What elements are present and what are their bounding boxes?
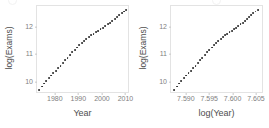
y-axis-tick-mark [169, 54, 172, 55]
data-point [62, 62, 64, 64]
data-point [55, 70, 57, 72]
y-axis-tick-label: 11 [17, 50, 33, 57]
data-point [257, 9, 259, 11]
data-point [222, 36, 224, 38]
x-axis-tick-mark [125, 93, 126, 95]
data-point [102, 27, 104, 29]
data-point [67, 57, 69, 59]
x-axis-tick-labels-right: 7.5907.5957.6007.605 [170, 95, 263, 107]
x-axis-tick-label: 7.600 [224, 95, 242, 102]
plot-area-right [170, 5, 263, 93]
data-point [38, 89, 40, 91]
data-point [71, 51, 73, 53]
x-axis-tick-mark [186, 93, 187, 95]
y-axis-title-right: log(Exams) [136, 0, 150, 96]
data-point [180, 80, 182, 82]
data-point [208, 49, 210, 51]
x-axis-tick-mark [232, 93, 233, 95]
data-point [88, 36, 90, 38]
data-point [116, 16, 118, 18]
data-point [197, 62, 199, 64]
y-axis-title-left: log(Exams) [2, 0, 16, 96]
x-axis-tick-label: 1980 [47, 95, 63, 102]
x-axis-title-left: Year [36, 108, 129, 118]
y-axis-tick-label: 12 [151, 22, 167, 29]
y-axis-tick-mark [169, 26, 172, 27]
data-point [188, 72, 190, 74]
data-point [121, 12, 123, 14]
data-point [215, 42, 217, 44]
data-point [60, 65, 62, 67]
figure-two-panel-scatter: log(Exams) 101112 1980199020002010 Year … [0, 0, 269, 128]
data-point [237, 25, 239, 27]
y-axis-tick-label: 12 [17, 22, 33, 29]
data-point [104, 25, 106, 27]
y-axis-tick-mark [169, 81, 172, 82]
y-axis-tick-label: 10 [151, 77, 167, 84]
y-axis-tick-label: 11 [151, 50, 167, 57]
data-point [81, 42, 83, 44]
data-point [190, 70, 192, 72]
data-point [111, 20, 113, 22]
data-point [211, 47, 213, 49]
x-axis-title-right: log(Year) [170, 108, 263, 118]
data-point [224, 34, 226, 36]
data-point [204, 54, 206, 56]
x-axis-tick-mark [209, 93, 210, 95]
x-axis-tick-label: 7.595 [200, 95, 218, 102]
x-axis-tick-labels-left: 1980199020002010 [36, 95, 129, 107]
data-point [178, 83, 180, 85]
data-point [48, 77, 50, 79]
y-axis-tick-label: 10 [17, 77, 33, 84]
data-point [85, 38, 87, 40]
data-point [242, 22, 244, 24]
data-point [107, 23, 109, 25]
data-point [45, 80, 47, 82]
data-point [90, 34, 92, 36]
data-point [183, 77, 185, 79]
data-point [69, 54, 71, 56]
x-axis-tick-label: 2000 [94, 95, 110, 102]
data-point [192, 67, 194, 69]
data-point [244, 20, 246, 22]
data-point [248, 16, 250, 18]
x-axis-tick-label: 7.605 [247, 95, 265, 102]
data-point [199, 59, 201, 61]
data-point [195, 65, 197, 67]
data-point [240, 23, 242, 25]
data-point [83, 40, 85, 42]
x-axis-tick-label: 1990 [71, 95, 87, 102]
data-point [206, 51, 208, 53]
x-axis-tick-mark [78, 93, 79, 95]
y-axis-tick-mark [35, 54, 38, 55]
y-axis-tick-labels-right: 101112 [149, 0, 167, 96]
data-point [50, 75, 52, 77]
data-point [41, 86, 43, 88]
data-point [202, 57, 204, 59]
data-point [250, 14, 252, 16]
data-point [185, 75, 187, 77]
y-axis-tick-labels-left: 101112 [15, 0, 33, 96]
data-point [173, 89, 175, 91]
data-point [118, 14, 120, 16]
data-point [57, 67, 59, 69]
data-point [229, 31, 231, 33]
y-axis-tick-mark [35, 26, 38, 27]
data-point [76, 47, 78, 49]
data-point [213, 44, 215, 46]
data-point [78, 44, 80, 46]
x-axis-tick-label: 7.590 [177, 95, 195, 102]
x-axis-tick-mark [54, 93, 55, 95]
data-point [235, 27, 237, 29]
data-point [53, 72, 55, 74]
plot-area-left [36, 5, 129, 93]
data-point [74, 49, 76, 51]
x-axis-tick-mark [256, 93, 257, 95]
data-point [126, 9, 128, 11]
data-point [252, 12, 254, 14]
data-point [246, 18, 248, 20]
y-axis-tick-mark [35, 81, 38, 82]
data-point [64, 59, 66, 61]
data-point [95, 31, 97, 33]
data-point [109, 22, 111, 24]
